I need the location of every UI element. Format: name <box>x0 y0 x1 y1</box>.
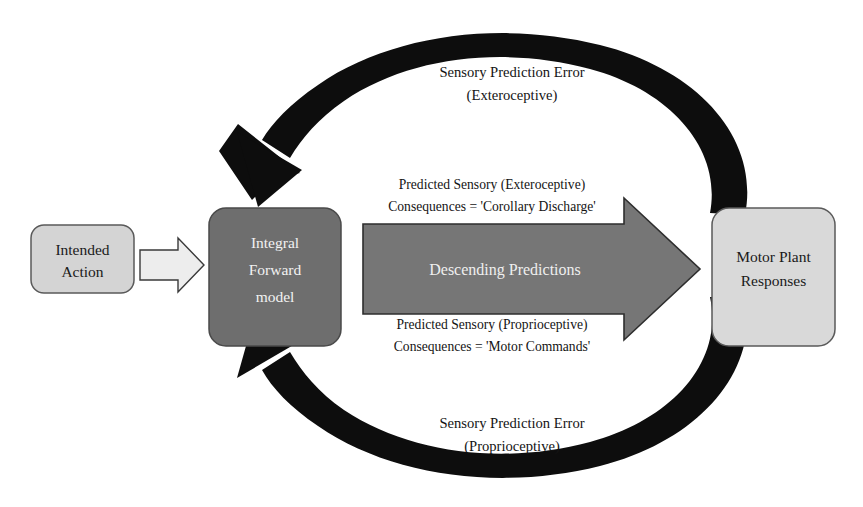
node-motor-plant-responses-label-line1: Motor Plant <box>736 248 811 265</box>
node-integral-forward-model-label-line2: Forward <box>249 261 302 278</box>
curved-arrow-exteroceptive-label-line1: Sensory Prediction Error <box>439 64 584 80</box>
node-intended-action[interactable]: Intended Action <box>31 225 134 293</box>
annotation-proprioceptive-consequences: Predicted Sensory (Proprioceptive) Conse… <box>394 317 590 354</box>
block-arrow-descending-predictions-label: Descending Predictions <box>429 261 581 279</box>
diagram-canvas: Sensory Prediction Error (Exteroceptive)… <box>0 0 863 507</box>
annotation-proprioceptive-line1: Predicted Sensory (Proprioceptive) <box>396 317 587 333</box>
node-integral-forward-model[interactable]: Integral Forward model <box>209 208 341 346</box>
curved-arrow-exteroceptive-label-line2: (Exteroceptive) <box>467 87 558 104</box>
diagram-root: Sensory Prediction Error (Exteroceptive)… <box>0 0 863 507</box>
node-intended-action-box <box>31 225 134 293</box>
node-integral-forward-model-label-line3: model <box>256 288 295 305</box>
block-arrow-intended-to-model[interactable] <box>140 238 204 292</box>
node-integral-forward-model-label-line1: Integral <box>251 234 299 251</box>
annotation-exteroceptive-line1: Predicted Sensory (Exteroceptive) <box>399 177 585 193</box>
annotation-exteroceptive-consequences: Predicted Sensory (Exteroceptive) Conseq… <box>388 177 595 214</box>
curved-arrow-proprioceptive-label-line1: Sensory Prediction Error <box>439 415 584 431</box>
curved-arrow-exteroceptive-label: Sensory Prediction Error (Exteroceptive) <box>439 64 584 104</box>
node-intended-action-label-line1: Intended <box>55 241 109 258</box>
block-arrow-intended-to-model-shape <box>140 238 204 292</box>
node-motor-plant-responses[interactable]: Motor Plant Responses <box>712 208 835 346</box>
node-intended-action-label-line2: Action <box>61 263 103 280</box>
node-motor-plant-responses-label-line2: Responses <box>741 272 806 289</box>
annotation-exteroceptive-line2: Consequences = 'Corollary Discharge' <box>388 199 595 214</box>
annotation-proprioceptive-line2: Consequences = 'Motor Commands' <box>394 339 590 354</box>
curved-arrow-proprioceptive-label-line2: (Proprioceptive) <box>464 438 560 455</box>
